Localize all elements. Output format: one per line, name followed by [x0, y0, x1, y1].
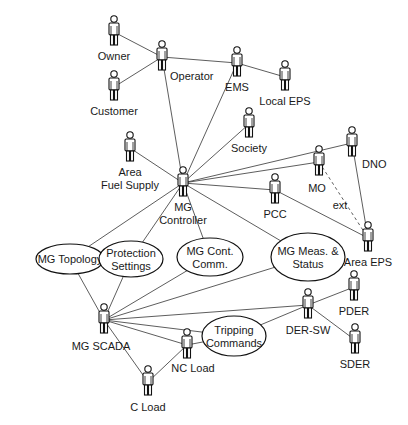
actor-pder[interactable]: PDER [339, 271, 370, 317]
actor-icon [178, 167, 188, 196]
use-case-label: MG Meas. & [277, 245, 339, 257]
actor-icon [363, 222, 373, 251]
actor-icon [347, 127, 357, 156]
actor-icon [182, 329, 192, 358]
actor-icon [232, 47, 242, 76]
actor-label: PCC [263, 208, 286, 220]
actor-label: DER-SW [286, 324, 331, 336]
actor-icon [99, 304, 109, 333]
use-case-label: Status [292, 258, 324, 270]
edge-ems-local-eps [237, 63, 285, 77]
actor-label: Operator [170, 70, 214, 82]
actor-label: Area [118, 166, 142, 178]
edge-label-layer: ext [333, 199, 348, 211]
actor-icon [157, 41, 167, 70]
edge-der-sw-pder [308, 287, 354, 305]
actor-dno[interactable]: DNO [347, 127, 387, 170]
actor-label: MG SCADA [72, 340, 131, 352]
edge-mg-controller-pcc [183, 183, 275, 190]
actor-owner[interactable]: Owner [98, 16, 131, 62]
actor-pcc[interactable]: PCC [263, 174, 286, 220]
actor-icon [109, 71, 119, 100]
edge-pcc-area-eps [275, 190, 368, 238]
actor-label: C Load [130, 401, 165, 413]
actor-label: MO [308, 182, 326, 194]
use-case-label: Protection [106, 247, 156, 259]
actor-mg-scada[interactable]: MG SCADA [72, 304, 131, 352]
actor-sder[interactable]: SDER [340, 324, 371, 370]
edge-mg-controller-dno [183, 143, 352, 183]
actor-icon [244, 108, 254, 137]
use-case-label: MG Cont. [186, 245, 233, 257]
actor-local-eps[interactable]: Local EPS [259, 61, 310, 107]
actor-label: EMS [225, 81, 249, 93]
actor-label: Society [231, 142, 268, 154]
actor-icon [125, 132, 135, 161]
actor-icon [270, 174, 280, 203]
edge-label: ext [333, 199, 348, 211]
use-case-tripping-commands[interactable]: TrippingCommands [202, 316, 266, 356]
use-case-label: Comm. [192, 258, 227, 270]
use-case-label: Tripping [214, 324, 253, 336]
actor-label: PDER [339, 305, 370, 317]
actor-society[interactable]: Society [231, 108, 268, 154]
actor-label: SDER [340, 358, 371, 370]
use-case-mg-topology[interactable]: MG Topology [36, 244, 104, 274]
edge-operator-ems [162, 57, 237, 63]
actor-icon [303, 289, 313, 318]
use-case-mg-meas-status[interactable]: MG Meas. &Status [271, 233, 345, 281]
actor-area-eps[interactable]: Area EPS [344, 222, 392, 268]
actor-icon [314, 146, 324, 175]
use-case-mg-cont-comm[interactable]: MG Cont.Comm. [177, 238, 243, 276]
actor-icon [109, 16, 119, 45]
use-case-protection-settings[interactable]: ProtectionSettings [99, 241, 163, 277]
actor-label: Controller [159, 214, 207, 226]
actor-customer[interactable]: Customer [90, 71, 138, 117]
actor-icon [349, 271, 359, 300]
actor-label: Fuel Supply [101, 179, 160, 191]
actor-label: Area EPS [344, 256, 392, 268]
actor-label: MG [174, 201, 192, 213]
actor-ems[interactable]: EMS [225, 47, 249, 93]
actor-icon [143, 366, 153, 395]
use-case-diagram: ext MG TopologyProtectionSettingsMG Cont… [0, 0, 408, 425]
use-case-label: MG Topology [38, 253, 103, 265]
actor-label: DNO [362, 158, 387, 170]
actor-icon [280, 61, 290, 90]
actor-mg-controller[interactable]: MGController [159, 167, 207, 226]
use-case-label: Commands [206, 337, 263, 349]
use-case-label: Settings [111, 260, 151, 272]
actor-der-sw[interactable]: DER-SW [286, 289, 331, 336]
actor-icon [350, 324, 360, 353]
actor-c-load[interactable]: C Load [130, 366, 165, 413]
actor-label: Owner [98, 50, 131, 62]
actor-label: Local EPS [259, 95, 310, 107]
actor-label: Customer [90, 105, 138, 117]
actor-label: NC Load [171, 362, 214, 374]
